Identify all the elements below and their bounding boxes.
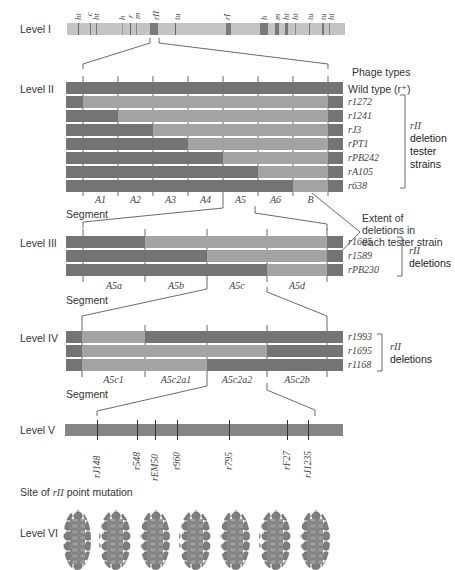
dna-double-helix-icon	[0, 0, 455, 570]
